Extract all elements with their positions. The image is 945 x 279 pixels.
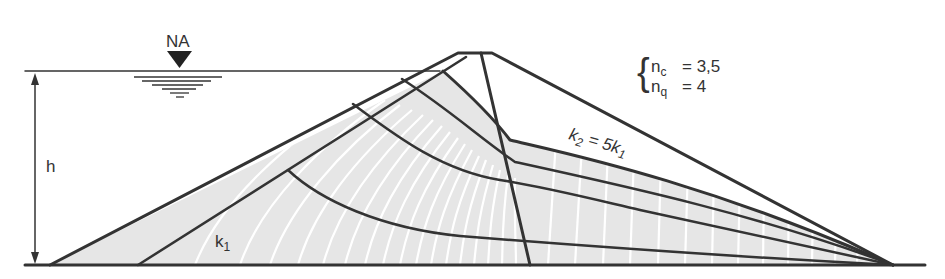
water-surface-icon — [134, 77, 222, 97]
earth-dam-flow-net-diagram: h NA k1 k2 = 5k1 { nc= 3,5 nq= 4 — [0, 0, 945, 279]
height-dimension — [31, 73, 39, 264]
height-label: h — [46, 157, 55, 176]
water-level-label: NA — [166, 32, 190, 51]
nc-label: nc= 3,5 — [651, 57, 720, 79]
nq-label: nq= 4 — [651, 77, 706, 99]
brace-icon: { — [637, 51, 650, 93]
water-level-triangle-icon — [167, 51, 192, 68]
